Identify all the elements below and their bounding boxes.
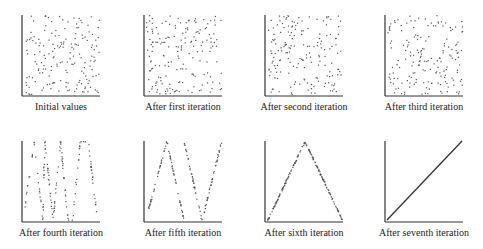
data-point [274,206,275,207]
data-point [191,174,192,175]
data-point [51,21,52,22]
data-point [90,161,91,162]
data-point [184,144,185,145]
data-point [95,40,96,41]
data-point [446,39,447,40]
data-point [193,86,194,87]
data-point [209,192,210,193]
data-point [404,92,405,93]
data-point [54,203,55,204]
data-point [52,83,53,84]
data-point [219,83,220,84]
data-point [156,92,157,93]
data-point [275,68,276,69]
data-point [193,36,194,37]
data-point [216,161,217,162]
data-point [277,65,278,66]
data-point [287,52,288,53]
data-point [90,87,91,88]
data-point [435,72,436,73]
data-point [205,208,206,209]
data-point [97,90,98,91]
data-point [162,158,163,159]
data-point [26,41,27,42]
data-point [79,80,80,81]
data-point [170,16,171,17]
data-point [200,29,201,30]
data-point [29,87,30,88]
data-point [175,179,176,180]
data-point [65,201,66,202]
data-point [85,87,86,88]
data-point [76,27,77,28]
data-point [176,183,177,184]
data-point [54,48,55,49]
data-point [197,51,198,52]
data-point [162,23,163,24]
data-point [164,65,165,66]
data-point [81,71,82,72]
data-point [40,42,41,43]
data-point [73,49,74,50]
data-point [199,207,200,208]
data-point [212,82,213,83]
data-point [162,83,163,84]
data-point [411,77,412,78]
data-point [326,187,327,188]
data-point [323,179,324,180]
data-point [84,88,85,89]
data-point [177,193,178,194]
data-point [42,72,43,73]
data-point [299,84,300,85]
data-point [52,51,53,52]
data-point [32,77,33,78]
data-point [156,42,157,43]
data-point [307,82,308,83]
data-point [29,76,30,77]
data-point [221,143,222,144]
data-point [178,18,179,19]
data-point [160,166,161,167]
data-point [39,192,40,193]
data-point [89,66,90,67]
data-point [311,62,312,63]
data-point [319,171,320,172]
data-point [175,25,176,26]
data-point [309,16,310,17]
data-point [85,76,86,77]
data-point [324,86,325,87]
data-point [47,170,48,171]
panel-label: After fifth iteration [145,227,222,238]
data-point [408,42,409,43]
data-point [39,72,40,73]
data-point [298,17,299,18]
data-point [63,47,64,48]
data-point [151,44,152,45]
data-point [309,46,310,47]
data-point [179,91,180,92]
data-point [87,40,88,41]
data-point [286,19,287,20]
data-point [461,79,462,80]
data-point [279,194,280,195]
data-point [413,73,414,74]
data-point [212,178,213,179]
data-point [310,152,311,153]
data-point [59,16,60,17]
data-point [443,50,444,51]
data-point [207,23,208,24]
data-point [290,62,291,63]
data-point [218,156,219,157]
data-point [185,38,186,39]
data-point [38,39,39,40]
data-point [184,143,185,144]
data-point [274,77,275,78]
data-point [95,202,96,203]
data-point [209,189,210,190]
data-point [49,180,50,181]
data-point [84,67,85,68]
data-point [62,156,63,157]
data-point [159,38,160,39]
data-point [34,142,35,143]
data-point [304,142,305,143]
